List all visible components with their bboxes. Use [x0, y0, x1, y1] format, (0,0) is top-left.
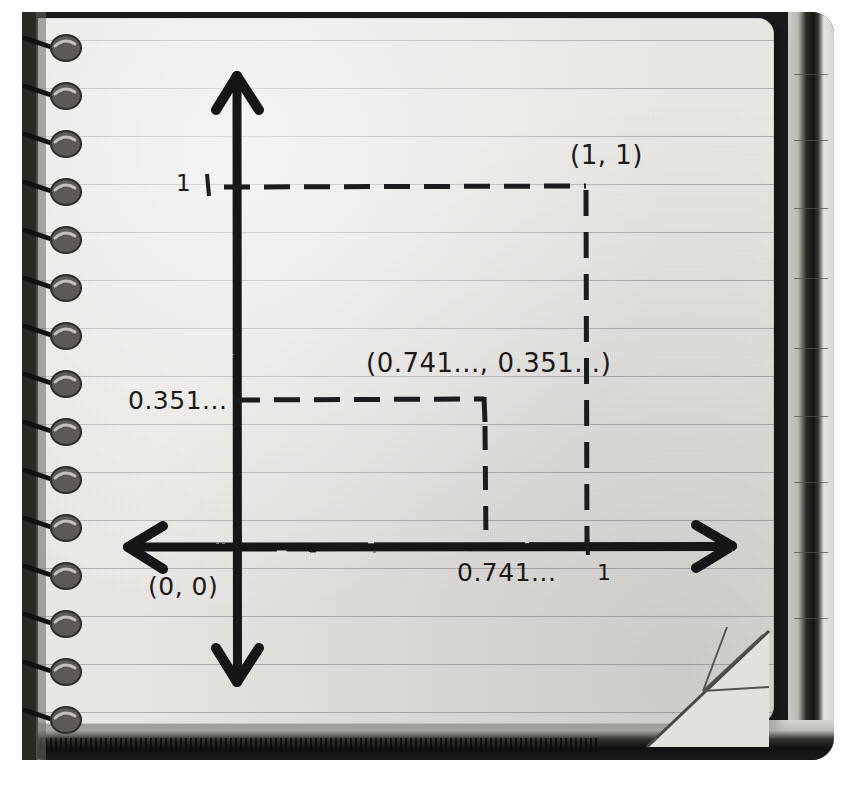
y-tick-label-0351: 0.351... — [128, 386, 227, 415]
x-tick-label-1: 1 — [597, 560, 612, 585]
page-stack-right-edge — [788, 12, 834, 760]
y-tick-label-1: 1 — [176, 170, 191, 196]
x-tick-label-0741: 0.741... — [457, 558, 556, 587]
notebook-photo: 1 0.351... (0, 0) 0.741... 1 (1, 1) (0.7… — [0, 0, 855, 797]
origin-label: (0, 0) — [148, 572, 218, 601]
point-label-1-1: (1, 1) — [570, 140, 643, 170]
page-stack-bottom-edge — [22, 720, 834, 760]
point-label-mid: (0.741..., 0.351...) — [366, 348, 611, 378]
